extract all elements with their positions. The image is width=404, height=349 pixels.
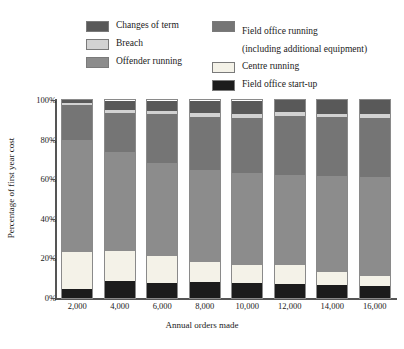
legend-item-changes-of-term: Changes of term — [86, 20, 211, 33]
legend-item-field-office-running: Field office running (including addition… — [212, 20, 402, 56]
bar-segment — [275, 100, 305, 112]
bar-segment — [147, 101, 177, 111]
bar-4000[interactable] — [105, 100, 135, 298]
bar-segment — [232, 265, 262, 283]
bar-segment — [232, 173, 262, 265]
bar-6000[interactable] — [147, 100, 177, 298]
bar-8000[interactable] — [190, 100, 220, 298]
legend-swatch-offender-running — [86, 57, 109, 68]
legend-swatch-breach — [86, 39, 109, 50]
legend-sublabel-field-office-running: (including additional equipment) — [242, 44, 367, 54]
legend-label-centre-running: Centre running — [242, 61, 299, 73]
bar-segment — [147, 163, 177, 256]
legend-swatch-field-office-running — [212, 21, 235, 32]
bar-segment — [190, 117, 220, 170]
bar-segment — [317, 285, 347, 298]
bar-segment — [190, 282, 220, 298]
bar-segment — [190, 262, 220, 282]
bar-segment — [62, 289, 92, 298]
bar-segment — [62, 105, 92, 140]
legend-label-breach: Breach — [116, 38, 143, 50]
bar-segment — [317, 100, 347, 114]
x-tick-label-16000: 16,000 — [345, 302, 404, 311]
chart-legend: Changes of term Breach Offender running … — [0, 0, 404, 88]
bar-segment — [317, 176, 347, 272]
y-tick-mark-0 — [51, 298, 56, 299]
legend-label-offender-running: Offender running — [116, 56, 182, 68]
legend-label-field-office-running: Field office running — [242, 26, 318, 36]
plot-area — [56, 100, 396, 298]
bar-segment — [232, 118, 262, 173]
legend-label-changes-of-term: Changes of term — [116, 20, 179, 32]
legend-swatch-changes-of-term — [86, 21, 109, 32]
bar-segment — [190, 170, 220, 262]
legend-column-left: Changes of term Breach Offender running — [86, 20, 211, 74]
bar-segment — [105, 281, 135, 298]
legend-swatch-centre-running — [212, 62, 235, 73]
bar-segment — [147, 256, 177, 283]
bar-segment — [147, 114, 177, 164]
legend-column-right: Field office running (including addition… — [212, 20, 402, 97]
bar-segment — [360, 286, 390, 298]
bar-segment — [360, 177, 390, 276]
bar-segment — [275, 284, 305, 298]
bar-segment — [360, 100, 390, 114]
bar-12000[interactable] — [275, 100, 305, 298]
x-axis-title: Annual orders made — [0, 320, 404, 330]
bar-segment — [275, 175, 305, 265]
bar-2000[interactable] — [62, 100, 92, 298]
bar-segment — [360, 276, 390, 286]
bar-segment — [62, 140, 92, 253]
legend-item-breach: Breach — [86, 38, 211, 51]
bar-segment — [360, 118, 390, 177]
legend-label-field-office-running-group: Field office running (including addition… — [242, 20, 367, 56]
legend-item-centre-running: Centre running — [212, 61, 402, 74]
bar-segment — [105, 101, 135, 110]
bar-segment — [232, 101, 262, 114]
bar-segment — [62, 252, 92, 289]
stacked-bar-chart: Percentage of first year cost 100%80%60%… — [0, 88, 404, 349]
bar-segment — [190, 101, 220, 113]
legend-item-offender-running: Offender running — [86, 56, 211, 69]
bar-segment — [105, 113, 135, 153]
bar-segment — [317, 117, 347, 176]
bar-segment — [232, 283, 262, 298]
bar-segment — [275, 116, 305, 175]
y-axis-title: Percentage of first year cost — [6, 103, 16, 273]
bar-segment — [147, 283, 177, 298]
bar-14000[interactable] — [317, 100, 347, 298]
x-axis-line — [55, 298, 397, 300]
bar-segment — [105, 251, 135, 281]
bar-10000[interactable] — [232, 100, 262, 298]
bar-segment — [105, 152, 135, 251]
bar-16000[interactable] — [360, 100, 390, 298]
bar-segment — [275, 265, 305, 284]
bar-segment — [317, 272, 347, 285]
